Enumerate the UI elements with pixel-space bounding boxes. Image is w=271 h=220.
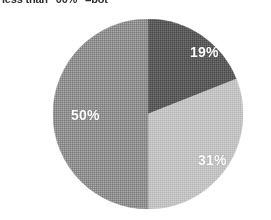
legend-text-row: less than 00% =bot: [2, 0, 113, 5]
slice-label-31: 31%: [198, 152, 227, 168]
slice-label-19: 19%: [190, 44, 219, 60]
chart-legend: less than 00% =bot: [0, 0, 271, 9]
slice-label-50: 50%: [71, 107, 100, 123]
pie-slice-50: [53, 19, 148, 209]
legend-entry-2: =bot: [85, 0, 108, 5]
pie-chart-figure: less than 00% =bot 19% 31% 50%: [0, 0, 271, 220]
legend-entry-0: less than: [2, 0, 48, 5]
legend-entry-1: 00%: [56, 0, 77, 5]
